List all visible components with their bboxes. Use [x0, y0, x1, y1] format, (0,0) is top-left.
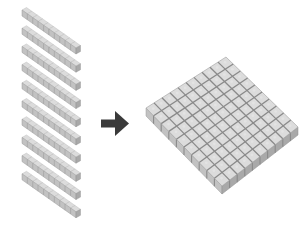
- flat-top-face: [146, 57, 298, 186]
- rods-group: [22, 8, 81, 218]
- hundred-flat: [146, 57, 298, 194]
- rods-to-flat-diagram: [0, 0, 306, 227]
- arrow-right-icon: [101, 111, 129, 136]
